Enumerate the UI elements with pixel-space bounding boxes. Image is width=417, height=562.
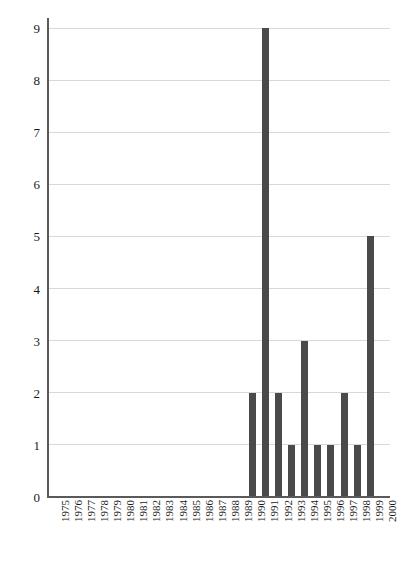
x-tick-label: 1986 <box>204 500 215 522</box>
x-tick-label: 1991 <box>269 500 280 522</box>
x-tick-label: 2000 <box>387 500 398 522</box>
bar <box>262 28 269 497</box>
x-tick-label: 1987 <box>217 500 228 522</box>
x-tick-label: 1985 <box>191 500 202 522</box>
y-tick-label: 7 <box>0 126 40 139</box>
x-tick-label: 1975 <box>60 500 71 522</box>
bar <box>275 393 282 497</box>
x-tick-label: 1997 <box>348 500 359 522</box>
x-tick-label: 1990 <box>256 500 267 522</box>
x-tick-label: 1995 <box>322 500 333 522</box>
x-tick-label: 1981 <box>138 500 149 522</box>
bar <box>327 445 334 497</box>
y-tick-label: 6 <box>0 178 40 191</box>
y-tick-label: 5 <box>0 230 40 243</box>
bar <box>367 236 374 497</box>
x-tick-label: 1978 <box>99 500 110 522</box>
y-tick-label: 4 <box>0 283 40 296</box>
x-tick-label: 1976 <box>73 500 84 522</box>
bar <box>288 445 295 497</box>
bar <box>314 445 321 497</box>
x-tick-label: 1977 <box>86 500 97 522</box>
x-tick-label: 1992 <box>283 500 294 522</box>
x-tick-label: 1998 <box>361 500 372 522</box>
x-tick-label: 1983 <box>164 500 175 522</box>
bar <box>341 393 348 497</box>
x-axis-line <box>47 496 390 498</box>
x-tick-label: 1989 <box>243 500 254 522</box>
y-tick-label: 9 <box>0 22 40 35</box>
x-tick-label: 1993 <box>296 500 307 522</box>
bar <box>354 445 361 497</box>
bar <box>301 341 308 497</box>
y-tick-label: 2 <box>0 387 40 400</box>
x-tick-label: 1994 <box>309 500 320 522</box>
y-tick-label: 8 <box>0 74 40 87</box>
x-axis-tick-labels: 1975197619771978197919801981198219831984… <box>49 500 390 560</box>
x-tick-label: 1979 <box>112 500 123 522</box>
bar <box>249 393 256 497</box>
y-tick-label: 0 <box>0 491 40 504</box>
y-tick-label: 1 <box>0 439 40 452</box>
x-tick-label: 1984 <box>178 500 189 522</box>
x-tick-label: 1982 <box>151 500 162 522</box>
bar-chart: 0123456789 19751976197719781979198019811… <box>0 0 417 562</box>
plot-area <box>49 18 390 497</box>
x-tick-label: 1988 <box>230 500 241 522</box>
x-tick-label: 1999 <box>374 500 385 522</box>
x-tick-label: 1980 <box>125 500 136 522</box>
y-tick-label: 3 <box>0 335 40 348</box>
x-tick-label: 1996 <box>335 500 346 522</box>
